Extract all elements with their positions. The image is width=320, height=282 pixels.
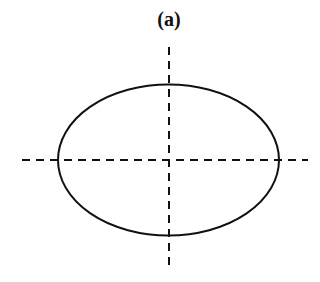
ellipse-diagram <box>0 0 320 282</box>
